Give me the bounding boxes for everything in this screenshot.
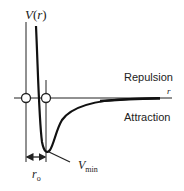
vmin-pointer	[49, 152, 70, 162]
attraction-label: Attraction	[124, 111, 170, 123]
x-axis-label: r	[167, 86, 171, 96]
crossing-marker-left	[22, 94, 31, 103]
y-axis-label: V(r)	[25, 7, 47, 22]
potential-diagram: V(r) r Repulsion Attraction Vmin ro	[0, 0, 184, 191]
potential-curve-tail	[100, 98, 160, 101]
crossing-marker-right	[42, 94, 51, 103]
ro-label: ro	[32, 167, 41, 183]
repulsion-label: Repulsion	[124, 71, 173, 83]
vmin-label: Vmin	[78, 158, 98, 174]
potential-curve	[36, 26, 160, 152]
